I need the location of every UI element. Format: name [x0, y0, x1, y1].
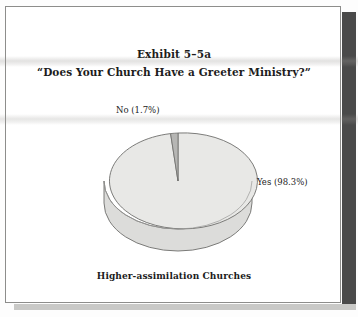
- pie-label-yes: Yes (98.3%): [257, 177, 308, 187]
- exhibit-frame: Exhibit 5–5a “Does Your Church Have a Gr…: [5, 6, 341, 303]
- exhibit-drop-shadow-bottom: [14, 304, 356, 310]
- exhibit-caption: Higher-assimilation Churches: [6, 271, 342, 281]
- pie-chart: [6, 7, 342, 304]
- exhibit-drop-shadow-right: [342, 12, 356, 309]
- pie-slice-yes-top: [109, 133, 257, 229]
- pie-label-no: No (1.7%): [116, 105, 159, 115]
